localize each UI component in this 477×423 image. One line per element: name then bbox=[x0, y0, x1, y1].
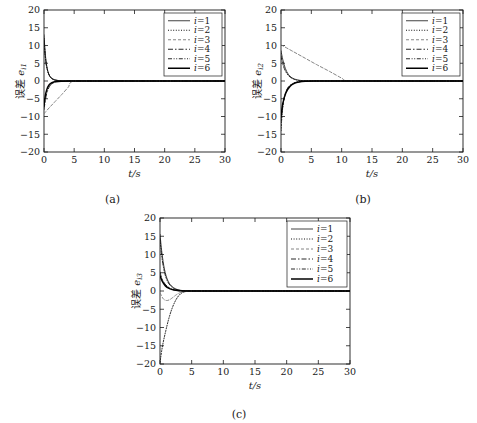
legend-label-i-1: i=1 bbox=[317, 224, 333, 234]
legend-label-i-3: i=3 bbox=[194, 35, 210, 45]
y-tick-label: 15 bbox=[144, 231, 156, 242]
chart-svg-c: 051015202530−20−15−10−505101520t/s误差 ei3… bbox=[114, 208, 364, 406]
y-tick-label: 20 bbox=[28, 4, 40, 15]
y-tick-label: 10 bbox=[265, 40, 277, 51]
svg-text:误差 ei3: 误差 ei3 bbox=[130, 273, 144, 309]
chart-svg-a: 051015202530−20−15−10−505101520t/s误差 ei1… bbox=[0, 0, 237, 190]
y-tick-label: 10 bbox=[144, 249, 156, 260]
y-axis-label: 误差 ei3 bbox=[130, 273, 144, 309]
y-tick-label: 20 bbox=[265, 4, 277, 15]
y-tick-label: −10 bbox=[257, 111, 277, 122]
series-line-i-6 bbox=[281, 81, 463, 117]
x-tick-label: 30 bbox=[344, 366, 356, 377]
x-tick-label: 25 bbox=[312, 366, 324, 377]
series-line-i-3 bbox=[160, 291, 350, 301]
x-tick-label: 20 bbox=[396, 154, 408, 165]
y-tick-label: 5 bbox=[150, 267, 156, 278]
legend-label-i-3: i=3 bbox=[317, 244, 333, 254]
x-tick-label: 25 bbox=[189, 154, 201, 165]
x-tick-label: 10 bbox=[336, 154, 348, 165]
y-tick-label: 0 bbox=[34, 75, 40, 86]
subfigure-caption-c: (c) bbox=[114, 408, 364, 421]
series-line-i-2 bbox=[160, 291, 350, 362]
x-tick-label: 5 bbox=[189, 366, 195, 377]
plot-area-a: 051015202530−20−15−10−505101520t/s误差 ei1… bbox=[0, 0, 237, 208]
legend-label-i-2: i=2 bbox=[432, 25, 448, 35]
subfigure-caption-b: (b) bbox=[243, 193, 477, 206]
x-tick-label: 15 bbox=[366, 154, 378, 165]
plot-area-c: 051015202530−20−15−10−505101520t/s误差 ei3… bbox=[114, 208, 364, 423]
y-tick-label: 5 bbox=[34, 58, 40, 69]
legend-label-i-2: i=2 bbox=[194, 25, 210, 35]
y-tick-label: 15 bbox=[28, 22, 40, 33]
x-tick-label: 30 bbox=[219, 154, 231, 165]
legend-label-i-4: i=4 bbox=[194, 44, 210, 54]
y-tick-label: −15 bbox=[257, 129, 277, 140]
series-line-i-4 bbox=[281, 81, 463, 122]
y-tick-label: −5 bbox=[142, 304, 156, 315]
x-tick-label: 20 bbox=[159, 154, 171, 165]
legend-label-i-6: i=6 bbox=[317, 274, 333, 284]
y-axis-label: 误差 ei1 bbox=[14, 63, 28, 99]
x-tick-label: 15 bbox=[249, 366, 261, 377]
x-tick-label: 10 bbox=[217, 366, 229, 377]
legend-label-i-1: i=1 bbox=[194, 16, 210, 26]
series-line-i-4 bbox=[44, 81, 225, 109]
x-tick-label: 5 bbox=[71, 154, 77, 165]
x-axis-label: t/s bbox=[249, 380, 262, 391]
y-axis-label: 误差 ei2 bbox=[251, 63, 265, 99]
x-tick-label: 30 bbox=[457, 154, 469, 165]
y-tick-label: 5 bbox=[271, 58, 277, 69]
x-axis-label: t/s bbox=[366, 168, 379, 179]
y-tick-label: −5 bbox=[263, 93, 277, 104]
y-tick-label: −5 bbox=[26, 93, 40, 104]
chart-svg-b: 051015202530−20−15−10−505101520t/s误差 ei2… bbox=[237, 0, 477, 190]
svg-text:误差 ei1: 误差 ei1 bbox=[14, 63, 28, 99]
y-tick-label: −10 bbox=[136, 322, 156, 333]
series-line-i-2 bbox=[281, 81, 463, 131]
y-tick-label: 20 bbox=[144, 212, 156, 223]
x-tick-label: 25 bbox=[427, 154, 439, 165]
legend-label-i-3: i=3 bbox=[432, 35, 448, 45]
y-tick-label: 0 bbox=[271, 75, 277, 86]
plot-area-b: 051015202530−20−15−10−505101520t/s误差 ei2… bbox=[237, 0, 477, 208]
series-line-i-6 bbox=[44, 81, 225, 106]
legend-label-i-4: i=4 bbox=[317, 254, 333, 264]
x-tick-label: 0 bbox=[157, 366, 163, 377]
x-tick-label: 20 bbox=[281, 366, 293, 377]
legend-label-i-6: i=6 bbox=[194, 63, 210, 73]
subfigure-b: 051015202530−20−15−10−505101520t/s误差 ei2… bbox=[237, 0, 477, 208]
legend-box bbox=[402, 13, 460, 76]
x-axis-label: t/s bbox=[128, 168, 141, 179]
x-tick-label: 5 bbox=[308, 154, 314, 165]
y-tick-label: −20 bbox=[136, 358, 156, 369]
y-tick-label: −20 bbox=[257, 146, 277, 157]
legend-label-i-2: i=2 bbox=[317, 234, 333, 244]
x-tick-label: 0 bbox=[41, 154, 47, 165]
x-tick-label: 10 bbox=[98, 154, 110, 165]
x-tick-label: 0 bbox=[278, 154, 284, 165]
subfigure-c: 051015202530−20−15−10−505101520t/s误差 ei3… bbox=[114, 208, 364, 423]
y-tick-label: 0 bbox=[150, 285, 156, 296]
subfigure-a: 051015202530−20−15−10−505101520t/s误差 ei1… bbox=[0, 0, 237, 208]
legend-box bbox=[164, 13, 222, 76]
legend-label-i-5: i=5 bbox=[432, 54, 448, 64]
series-line-i-3 bbox=[44, 81, 225, 114]
legend-label-i-5: i=5 bbox=[194, 54, 210, 64]
y-tick-label: 10 bbox=[28, 40, 40, 51]
y-tick-label: −20 bbox=[20, 146, 40, 157]
legend-label-i-1: i=1 bbox=[432, 16, 448, 26]
subfigure-caption-a: (a) bbox=[0, 193, 231, 206]
legend-label-i-6: i=6 bbox=[432, 63, 448, 73]
x-tick-label: 15 bbox=[128, 154, 140, 165]
y-tick-label: −15 bbox=[136, 340, 156, 351]
legend-label-i-4: i=4 bbox=[432, 44, 448, 54]
legend-label-i-5: i=5 bbox=[317, 264, 333, 274]
y-tick-label: −15 bbox=[20, 129, 40, 140]
y-tick-label: −10 bbox=[20, 111, 40, 122]
y-tick-label: 15 bbox=[265, 22, 277, 33]
svg-text:误差 ei2: 误差 ei2 bbox=[251, 63, 265, 99]
